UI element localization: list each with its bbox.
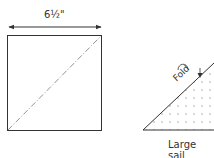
caption-large-sail: Large sail [168, 139, 214, 158]
square-paper [8, 36, 102, 131]
dimension-label: 6½" [44, 9, 65, 20]
